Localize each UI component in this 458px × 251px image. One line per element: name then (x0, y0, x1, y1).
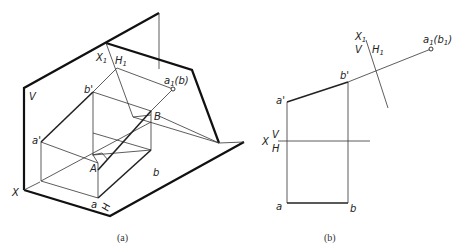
label-X-a: X (11, 187, 20, 198)
line-AB (98, 111, 151, 170)
h-plane-outline (24, 142, 244, 216)
label-X1-a: X1 (95, 52, 107, 65)
proj-x-a (41, 181, 98, 198)
figure-b-orthographic: X1 V H1 a1(b1) b' a' X V H a b (b) (261, 31, 452, 244)
line-a-prime-b-prime (41, 92, 93, 142)
caption-b: (b) (324, 232, 336, 244)
b-to-back (93, 133, 151, 150)
label-a-b: a (276, 201, 282, 212)
point-a1b1-b (429, 47, 433, 51)
line-a-prime-b-prime-b (287, 82, 348, 102)
h1-inner-2 (133, 117, 219, 143)
label-b-prime-b: b' (340, 70, 349, 81)
proj-B-a1 (151, 89, 173, 111)
ox-back (24, 182, 40, 190)
caption-a: (a) (117, 232, 128, 244)
figure-a-pictorial: V X1 H1 a1(b) b' a' B A b a X H (a) (11, 13, 244, 244)
label-b-a: b (153, 167, 159, 178)
b-prime-horizontal (93, 150, 151, 155)
label-a-prime-a: a' (32, 135, 41, 146)
label-H-a: H (99, 201, 112, 212)
label-a-prime-b: a' (276, 95, 285, 106)
proj-b-prime-B (93, 92, 151, 111)
label-H1-b: H1 (372, 44, 384, 57)
label-a1b1-b: a1(b1) (423, 34, 452, 47)
label-X-b: X (261, 136, 270, 147)
h1-inner-1 (133, 115, 151, 117)
label-H1-a: H1 (115, 55, 127, 68)
label-V-b: V (355, 44, 363, 55)
label-X1-b: X1 (354, 31, 366, 44)
label-V-axis-b: V (272, 129, 280, 140)
label-B-a: B (154, 111, 161, 122)
label-b-prime-a: b' (84, 84, 93, 95)
label-V-a: V (29, 91, 37, 102)
proj-a-prime-A (41, 142, 98, 163)
label-H-axis-b: H (272, 143, 280, 154)
label-a-a: a (91, 199, 97, 210)
label-A-a: A (89, 163, 97, 174)
h1-up (93, 68, 117, 92)
label-b-b: b (350, 203, 356, 214)
label-a1b1-a: a1(b) (164, 75, 189, 88)
h1-plane-outline (106, 43, 219, 143)
projection-diagram: V X1 H1 a1(b) b' a' B A b a X H (a) X1 V… (0, 0, 458, 251)
